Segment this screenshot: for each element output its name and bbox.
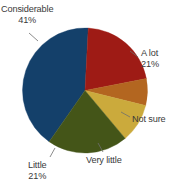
pie-label-considerable: Considerable 41% [1,4,53,25]
pie-label-not-sure-text: Not sure [132,114,166,124]
pie-label-very-little: Very little [86,155,122,166]
pie-label-little-text: Little [28,160,47,170]
pie-label-considerable-percent: 41% [1,15,53,26]
leader-line-little [50,148,55,157]
pie-label-a-lot-text: A lot [141,48,158,58]
pie-label-a-lot-percent: 21% [141,59,159,70]
pie-label-considerable-text: Considerable [1,4,53,14]
leader-line-considerable [29,33,38,41]
pie-label-very-little-text: Very little [86,155,122,165]
pie-chart-figure: Considerable 41% A lot 21% Not sure Very… [0,0,182,193]
pie-label-little: Little 21% [28,160,47,181]
pie-label-a-lot: A lot 21% [141,48,159,69]
pie-slices [23,28,148,153]
pie-label-not-sure: Not sure [132,114,166,125]
pie-label-little-percent: 21% [28,171,47,182]
